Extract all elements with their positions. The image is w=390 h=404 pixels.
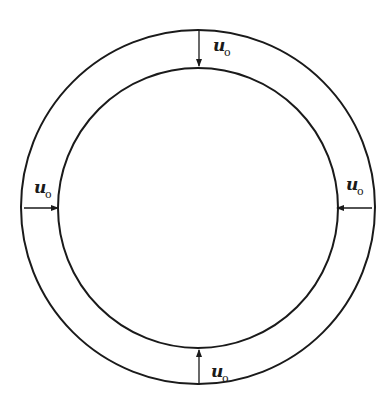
right-label: u o xyxy=(346,174,364,198)
left-label: u o xyxy=(34,177,52,201)
ring-diagram: u o u o u o u o xyxy=(0,0,390,404)
outer-circle xyxy=(21,30,375,384)
svg-text:o: o xyxy=(224,46,231,59)
svg-text:o: o xyxy=(357,185,364,198)
inner-circle xyxy=(58,68,338,348)
top-label: u o xyxy=(213,35,231,59)
svg-text:o: o xyxy=(45,188,52,201)
svg-text:o: o xyxy=(222,372,229,385)
bottom-label: u o xyxy=(211,361,229,385)
